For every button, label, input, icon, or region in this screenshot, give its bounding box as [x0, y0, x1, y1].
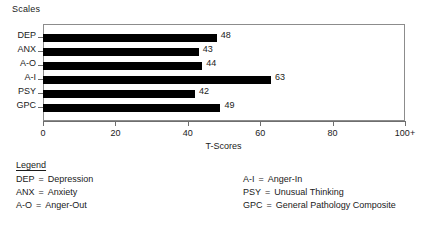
legend-equals: = [35, 173, 48, 186]
x-axis-title-text: T-Scores [205, 141, 241, 151]
x-tick-mark [188, 121, 189, 126]
legend: Legend DEP=DepressionANX=AnxietyA-O=Ange… [16, 160, 426, 215]
legend-description: General Pathology Composite [276, 199, 396, 212]
bar-value-psy: 42 [199, 86, 209, 96]
bar-value-a-o: 44 [206, 58, 216, 68]
x-tick-mark [115, 121, 116, 126]
legend-abbr: DEP [16, 173, 35, 186]
legend-entry-anx: ANX=Anxiety [16, 186, 93, 199]
legend-description: Anxiety [48, 186, 78, 199]
bar-value-anx: 43 [203, 44, 213, 54]
bar-a-i [43, 76, 271, 84]
bar-row: 44 [43, 59, 405, 73]
legend-entry-dep: DEP=Depression [16, 173, 93, 186]
legend-abbr: PSY [243, 186, 261, 199]
legend-description: Anger-In [268, 173, 303, 186]
legend-description: Depression [48, 173, 94, 186]
y-tick-label-a-o: A-O [20, 58, 36, 68]
legend-abbr: ANX [16, 186, 35, 199]
legend-entry-a-i: A-I=Anger-In [243, 173, 396, 186]
x-tick-mark [405, 121, 406, 126]
y-tick-label-gpc: GPC [16, 100, 36, 110]
chart-title: Scales [12, 4, 40, 14]
x-tick-label-40: 40 [183, 128, 193, 138]
legend-abbr: A-I [243, 173, 255, 186]
legend-columns: DEP=DepressionANX=AnxietyA-O=Anger-Out A… [16, 173, 426, 215]
legend-equals: = [255, 173, 268, 186]
legend-entry-psy: PSY=Unusual Thinking [243, 186, 396, 199]
legend-equals: = [263, 199, 276, 212]
bar-row: 42 [43, 87, 405, 101]
legend-column-right: A-I=Anger-InPSY=Unusual ThinkingGPC=Gene… [243, 173, 396, 212]
y-tick-label-dep: DEP [17, 30, 36, 40]
x-tick-label-20: 20 [110, 128, 120, 138]
legend-description: Anger-Out [45, 199, 87, 212]
bar-value-dep: 48 [221, 30, 231, 40]
bar-row: 48 [43, 31, 405, 45]
legend-abbr: GPC [243, 199, 263, 212]
x-tick-mark [43, 121, 44, 126]
x-axis-title: T-Scores [0, 141, 433, 151]
bar-value-gpc: 49 [224, 100, 234, 110]
bar-row: 49 [43, 101, 405, 115]
legend-equals: = [35, 186, 48, 199]
x-tick-label-100: 100+ [395, 128, 415, 138]
bar-gpc [43, 104, 220, 112]
legend-title: Legend [16, 160, 426, 170]
bar-row: 63 [43, 73, 405, 87]
bar-dep [43, 34, 217, 42]
y-axis-labels: DEPANXA-OA-IPSYGPC [0, 24, 43, 121]
y-tick-label-anx: ANX [17, 44, 36, 54]
legend-description: Unusual Thinking [274, 186, 343, 199]
legend-abbr: A-O [16, 199, 32, 212]
legend-column-left: DEP=DepressionANX=AnxietyA-O=Anger-Out [16, 173, 93, 212]
legend-equals: = [32, 199, 45, 212]
y-tick-label-a-i: A-I [24, 72, 36, 82]
x-tick-label-60: 60 [255, 128, 265, 138]
x-tick-mark [333, 121, 334, 126]
bar-anx [43, 48, 199, 56]
bar-value-a-i: 63 [275, 72, 285, 82]
bar-psy [43, 90, 195, 98]
x-axis-line [43, 121, 405, 122]
bars-layer: 484344634249 [43, 24, 405, 121]
bar-row: 43 [43, 45, 405, 59]
x-tick-label-80: 80 [328, 128, 338, 138]
x-tick-label-0: 0 [40, 128, 45, 138]
x-tick-mark [260, 121, 261, 126]
legend-entry-gpc: GPC=General Pathology Composite [243, 199, 396, 212]
bar-a-o [43, 62, 202, 70]
legend-equals: = [261, 186, 274, 199]
y-tick-label-psy: PSY [18, 86, 36, 96]
legend-entry-a-o: A-O=Anger-Out [16, 199, 93, 212]
